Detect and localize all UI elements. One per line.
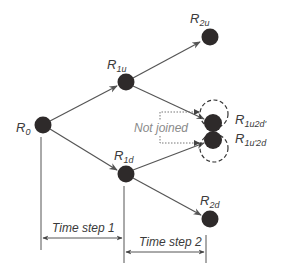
node-r1u2d-prime — [204, 114, 222, 132]
label-r1u2d-prime: R1u2d' — [235, 112, 266, 129]
label-r0: R0 — [16, 120, 30, 137]
label-r2u: R2u — [190, 11, 209, 28]
label-r1d: R1d — [114, 148, 134, 165]
node-r2u — [202, 29, 219, 46]
edge-r0-r1u — [50, 86, 117, 121]
edge-r1u-r1u2d — [133, 86, 204, 119]
node-r1d — [118, 166, 135, 183]
label-r1u: R1u — [107, 57, 126, 74]
label-r2d: R2d — [200, 193, 220, 210]
edge-r0-r1d — [50, 129, 117, 170]
edge-r1u-r2u — [133, 42, 200, 78]
time-step-1-label: Time step 1 — [52, 221, 115, 235]
node-r2d — [202, 211, 219, 228]
time-step-2-label: Time step 2 — [139, 235, 202, 249]
edge-r1d-r2d — [133, 178, 201, 215]
binomial-tree-diagram: Not joined R0 R1u R1d R2u R1u2d' R1u'2d … — [0, 0, 281, 280]
node-r1u-prime-2d — [204, 131, 222, 149]
node-r1u — [118, 74, 135, 91]
not-joined-arrow-top — [194, 109, 200, 115]
node-r0 — [35, 117, 52, 134]
not-joined-label: Not joined — [134, 121, 188, 135]
label-r1u-prime-2d: R1u'2d — [235, 131, 267, 148]
edge-r1d-r1u2d — [133, 143, 204, 170]
